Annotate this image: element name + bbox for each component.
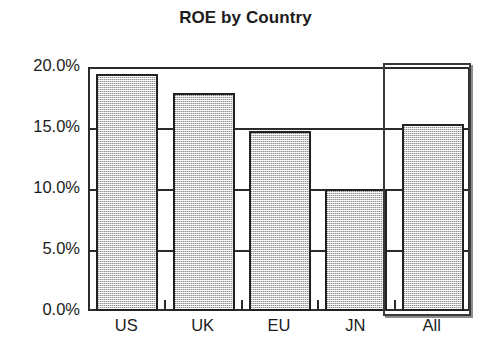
all-highlight-box: [383, 63, 471, 316]
x-axis-tick-label: All: [394, 316, 470, 335]
y-axis-tick-label: 0.0%: [0, 300, 80, 319]
x-axis-tick-label: UK: [164, 316, 240, 335]
y-axis-tick-label: 10.0%: [0, 178, 80, 197]
chart-container: ROE by Country 0.0%5.0%10.0%15.0%20.0% U…: [0, 0, 491, 357]
y-axis-tick-label: 5.0%: [0, 239, 80, 258]
x-axis-tick-label: EU: [241, 316, 317, 335]
y-axis-tick-label: 20.0%: [0, 56, 80, 75]
x-axis-tick-label: JN: [317, 316, 393, 335]
x-axis-tick: [164, 300, 166, 311]
y-axis-tick-label: 15.0%: [0, 117, 80, 136]
x-axis-tick-label: US: [88, 316, 164, 335]
x-axis-labels: USUKEUJNAll: [88, 316, 470, 346]
x-axis-tick: [317, 300, 319, 311]
all-highlight-box-shadow: [385, 65, 473, 318]
x-axis-tick: [241, 300, 243, 311]
y-axis-labels: 0.0%5.0%10.0%15.0%20.0%: [0, 0, 84, 357]
